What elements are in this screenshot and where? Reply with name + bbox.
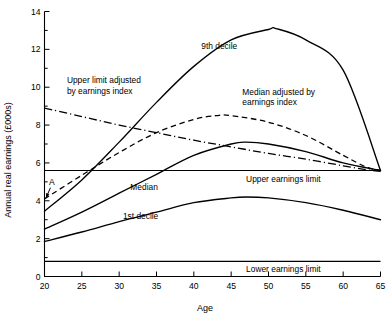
x-tick-label: 65 (376, 281, 386, 291)
x-tick-label: 55 (301, 281, 311, 291)
series-label-median-adjusted-by-earnings-index: earnings index (242, 97, 297, 107)
y-tick-label: 10 (31, 82, 41, 92)
y-tick-label: 6 (36, 158, 41, 168)
series-label-9th-decile: 9th decile (201, 41, 237, 51)
reference-line-label: Lower earnings limit (246, 264, 321, 274)
y-axis-title-group: Annual real earnings (£000s) (3, 102, 13, 218)
y-tick-label: 4 (36, 196, 41, 206)
x-tick-label: 20 (40, 281, 50, 291)
x-tick-label: 35 (152, 281, 162, 291)
series-label-upper-limit-adjusted-by-earnings-index: Upper limit adjusted (67, 75, 141, 85)
x-axis-title: Age (197, 303, 213, 313)
y-tick-label: 12 (31, 44, 41, 54)
series-label-median: Median (130, 182, 158, 192)
x-tick-label: 60 (338, 281, 348, 291)
series-label-upper-limit-adjusted-by-earnings-index: by earnings index (67, 86, 133, 96)
x-tick-label: 40 (189, 281, 199, 291)
earnings-by-age-chart: 0246810121420253035404550556065 Upper ea… (0, 0, 387, 317)
x-tick-label: 30 (114, 281, 124, 291)
x-axis-title-group: Age (197, 303, 213, 313)
reference-line-label: Upper earnings limit (246, 174, 321, 184)
y-tick-label: 8 (36, 120, 41, 130)
x-tick-label: 25 (77, 281, 87, 291)
y-tick-label: 14 (31, 7, 41, 17)
x-tick-label: 45 (226, 281, 236, 291)
series-label-median-adjusted-by-earnings-index: Median adjusted by (242, 87, 315, 97)
series-label-1st-decile: 1st decile (123, 211, 159, 221)
y-tick-label: 2 (36, 234, 41, 244)
x-tick-label: 50 (264, 281, 274, 291)
chart-container: 0246810121420253035404550556065 Upper ea… (0, 0, 387, 317)
annotation-label-a: A (49, 177, 55, 187)
y-axis-title: Annual real earnings (£000s) (3, 102, 13, 218)
